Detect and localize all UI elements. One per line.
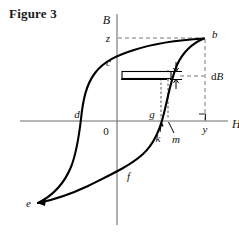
point-label-z: z (105, 32, 111, 44)
h-axis-label: H (231, 117, 239, 131)
hysteresis-loop-plot: B H 0 z c b d e f g k m y dB (0, 0, 239, 233)
point-label-m: m (172, 133, 180, 145)
point-label-e: e (26, 197, 31, 209)
dB-symbol: B (217, 70, 224, 82)
hatched-strip-dB (122, 72, 171, 79)
point-label-d: d (74, 108, 80, 120)
origin-label: 0 (103, 125, 109, 137)
point-label-g: g (149, 108, 155, 120)
point-label-y: y (202, 123, 208, 135)
figure-container: Figure 3 (0, 0, 239, 233)
point-label-c: c (106, 56, 111, 68)
b-axis-label: B (103, 13, 111, 27)
point-label-b: b (212, 28, 218, 40)
point-label-f: f (127, 170, 132, 182)
m-pointer-shaft (169, 122, 175, 133)
point-label-k: k (156, 132, 162, 144)
annotation-label-dB: dB (211, 70, 224, 82)
